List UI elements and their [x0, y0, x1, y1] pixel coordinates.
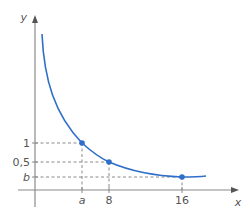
- xtick-16: 16: [175, 194, 189, 207]
- ytick-05: 0,5: [13, 156, 31, 169]
- ytick-1: 1: [23, 137, 30, 150]
- point-8-05: [106, 159, 112, 165]
- curve-series: [42, 34, 206, 177]
- point-a-1: [79, 140, 85, 146]
- y-axis-label: y: [19, 11, 27, 24]
- x-axis-arrow-icon: [231, 187, 239, 193]
- point-16-b: [179, 174, 185, 180]
- ticks: [32, 143, 182, 193]
- dashed-guides: [35, 143, 182, 190]
- axes: [18, 22, 232, 207]
- ytick-b: b: [23, 171, 30, 184]
- y-axis-arrow-icon: [32, 15, 38, 23]
- chart: y x 1 0,5 b a 8 16: [0, 0, 248, 218]
- xtick-8: 8: [106, 194, 113, 207]
- xtick-a: a: [79, 194, 86, 207]
- x-axis-label: x: [234, 196, 242, 209]
